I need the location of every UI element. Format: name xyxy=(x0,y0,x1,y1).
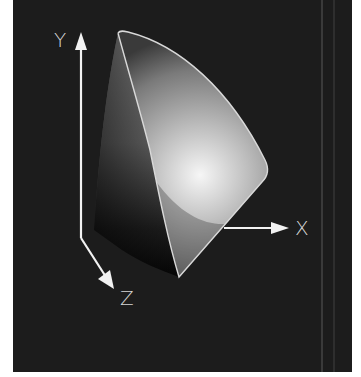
y-axis-arrowhead-icon xyxy=(75,32,87,50)
z-axis xyxy=(81,238,114,289)
z-axis-label: Z xyxy=(120,288,134,308)
y-axis-label: Y xyxy=(54,30,66,50)
x-axis xyxy=(224,222,289,234)
x-axis-label: X xyxy=(295,218,309,238)
xyz-gamut-diagram xyxy=(0,0,361,377)
x-axis-arrowhead-icon xyxy=(271,222,289,234)
y-axis xyxy=(75,32,87,238)
z-axis-arrowhead-icon xyxy=(98,270,114,289)
